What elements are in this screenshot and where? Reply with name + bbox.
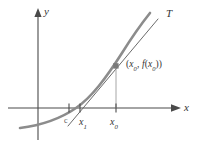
tick-label-x1: x1 [79, 117, 87, 130]
y-axis-arrowhead [34, 8, 41, 17]
x-axis-arrowhead [171, 104, 181, 112]
tangent-point-label: (x0, f(x0)) [126, 60, 162, 71]
x-axis-label: x [184, 102, 189, 113]
figure-canvas [0, 0, 198, 146]
point-label-x0-sub: 0 [134, 65, 137, 72]
tick-label-x0: x0 [110, 117, 118, 130]
point-label-close-paren: ) [159, 59, 162, 69]
point-label-x0-var: x [129, 59, 133, 69]
tangent-line-label: T [166, 8, 172, 19]
tangent-line [68, 19, 158, 126]
x-axis [8, 104, 181, 112]
y-axis-label: y [44, 6, 49, 17]
root-marker-label: c [64, 117, 68, 125]
tangent-point-marker [113, 63, 118, 68]
y-axis [34, 8, 41, 140]
point-label-f-x-sub: 0 [152, 65, 155, 72]
tick-label-x1-sub: 1 [83, 123, 86, 130]
point-label-comma: , [137, 59, 139, 69]
tick-label-x0-sub: 0 [114, 123, 117, 130]
tangent-line-figure: y x T (x0, f(x0)) x1 x0 c [0, 0, 198, 146]
